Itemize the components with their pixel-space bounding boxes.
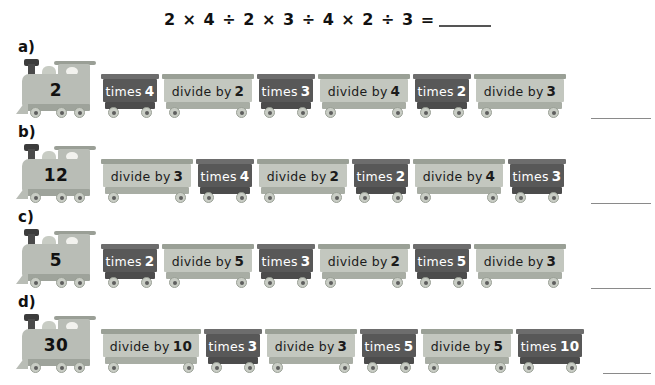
locomotive: 5 (14, 228, 98, 288)
row-answer-blank[interactable] (591, 202, 651, 204)
carriage-operation-label: times5 (418, 253, 467, 269)
carriage-times[interactable]: times3 (204, 329, 262, 373)
row-label: d) (18, 293, 36, 311)
carriage-divide[interactable]: divide by3 (101, 159, 193, 203)
carriage-operation-verb: times (262, 254, 298, 269)
equation-answer-blank[interactable] (439, 13, 491, 27)
train-wheel (74, 107, 85, 118)
carriage-times[interactable]: times4 (101, 74, 159, 118)
locomotive: 12 (14, 143, 98, 203)
row-answer-blank[interactable] (591, 117, 651, 119)
train-wheel (108, 107, 119, 118)
train-wheel (264, 277, 275, 288)
carriage-operation-label: divide by10 (110, 338, 192, 354)
locomotive: 2 (14, 58, 98, 118)
carriage-operation-label: times4 (106, 83, 155, 99)
carriage-divide[interactable]: divide by3 (474, 74, 566, 118)
carriage-operation-label: times2 (418, 83, 467, 99)
carriage-operation-value: 4 (391, 83, 401, 99)
carriage-body: divide by3 (267, 334, 355, 357)
train-wheel (30, 277, 41, 288)
train-wheel (367, 362, 378, 373)
train-wheel (74, 362, 85, 373)
carriage-times[interactable]: times4 (196, 159, 254, 203)
carriage-operation-value: 5 (404, 338, 414, 354)
carriage-body: times4 (103, 79, 157, 102)
train-wheel (56, 362, 67, 373)
carriage-operation-label: divide by3 (111, 168, 184, 184)
carriage-operation-verb: times (418, 84, 454, 99)
train-wheel (141, 277, 152, 288)
carriage-operation-label: divide by5 (172, 253, 245, 269)
train-wheel (74, 277, 85, 288)
carriage-operation-label: times2 (106, 253, 155, 269)
train-wheel (236, 107, 247, 118)
train-wheel (264, 107, 275, 118)
carriage-operation-verb: divide by (484, 254, 544, 269)
carriage-times[interactable]: times5 (413, 244, 471, 288)
carriage-operation-label: divide by3 (484, 253, 557, 269)
equation-line: 2 × 4 ÷ 2 × 3 ÷ 4 × 2 ÷ 3 = (0, 10, 655, 29)
carriage-operation-label: times3 (513, 168, 562, 184)
locomotive: 30 (14, 313, 98, 373)
carriage-operation-verb: divide by (111, 169, 171, 184)
train-row-a: a)2times4divide by2times3divide by4times… (0, 38, 655, 123)
carriage-body: divide by3 (103, 164, 191, 187)
carriage-operation-label: divide by2 (328, 253, 401, 269)
locomotive-start-number: 5 (22, 244, 90, 276)
carriage-divide[interactable]: divide by4 (318, 74, 410, 118)
carriage-body: times2 (103, 249, 157, 272)
train-wheel (339, 362, 350, 373)
train-wheel (548, 192, 559, 203)
carriage-operation-value: 3 (547, 83, 557, 99)
train-wheel (325, 277, 336, 288)
carriage-divide[interactable]: divide by3 (265, 329, 357, 373)
carriage-body: times3 (259, 249, 313, 272)
carriage-divide[interactable]: divide by4 (413, 159, 505, 203)
carriage-operation-verb: times (357, 169, 393, 184)
carriage-operation-value: 3 (547, 253, 557, 269)
carriage-operation-value: 3 (248, 338, 258, 354)
carriage-operation-verb: times (365, 339, 401, 354)
train-wheel (548, 277, 559, 288)
carriage-body: divide by3 (476, 79, 564, 102)
row-answer-blank[interactable] (603, 372, 651, 374)
carriage-operation-verb: times (521, 339, 557, 354)
train-wheel (108, 192, 119, 203)
carriage-operation-value: 2 (235, 83, 245, 99)
train-wheel (481, 107, 492, 118)
carriage-divide[interactable]: divide by2 (318, 244, 410, 288)
carriage-times[interactable]: times2 (413, 74, 471, 118)
train-wheel (169, 277, 180, 288)
carriage-operation-label: times5 (365, 338, 414, 354)
carriage-divide[interactable]: divide by3 (474, 244, 566, 288)
carriage-divide[interactable]: divide by2 (162, 74, 254, 118)
carriage-times[interactable]: times2 (101, 244, 159, 288)
carriage-body: times4 (198, 164, 252, 187)
carriage-operation-label: divide by5 (431, 338, 504, 354)
carriage-operation-label: times3 (209, 338, 258, 354)
train-row-c: c)5times2divide by5times3divide by2times… (0, 208, 655, 293)
carriage-operation-verb: divide by (328, 84, 388, 99)
carriage-times[interactable]: times3 (257, 244, 315, 288)
train-wheel (183, 362, 194, 373)
carriage-operation-verb: times (106, 84, 142, 99)
row-answer-blank[interactable] (591, 287, 651, 289)
carriage-operation-verb: divide by (423, 169, 483, 184)
carriage-operation-value: 10 (173, 338, 192, 354)
carriage-times[interactable]: times10 (516, 329, 584, 373)
carriage-times[interactable]: times3 (257, 74, 315, 118)
carriage-times[interactable]: times5 (360, 329, 418, 373)
carriage-divide[interactable]: divide by10 (101, 329, 201, 373)
carriage-operation-value: 4 (240, 168, 250, 184)
carriage-divide[interactable]: divide by2 (257, 159, 349, 203)
carriage-divide[interactable]: divide by5 (421, 329, 513, 373)
carriage-divide[interactable]: divide by5 (162, 244, 254, 288)
carriage-operation-value: 2 (145, 253, 155, 269)
carriage-times[interactable]: times3 (508, 159, 566, 203)
carriage-operation-value: 2 (391, 253, 401, 269)
train-wheel (487, 192, 498, 203)
carriage-times[interactable]: times2 (352, 159, 410, 203)
train-wheel (236, 192, 247, 203)
train: 5times2divide by5times3divide by2times5d… (14, 226, 566, 288)
